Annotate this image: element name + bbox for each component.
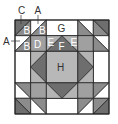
label-h: H bbox=[57, 62, 64, 73]
label-d: D bbox=[34, 39, 41, 50]
patch-g-left bbox=[15, 51, 31, 82]
patch-d bbox=[78, 83, 94, 99]
label-b: B bbox=[24, 25, 31, 36]
label-g: G bbox=[58, 23, 66, 34]
patch-d bbox=[78, 36, 94, 52]
label-a-top: A bbox=[35, 5, 42, 16]
label-c: C bbox=[18, 5, 25, 16]
label-f: F bbox=[59, 41, 65, 52]
label-e: E bbox=[71, 37, 78, 48]
quilt-block-diagram: C A A B B B D E F E G H bbox=[0, 0, 118, 124]
label-b: B bbox=[39, 25, 46, 36]
patch-g-bottom bbox=[46, 98, 77, 114]
patch-g-right bbox=[93, 51, 109, 82]
label-b: B bbox=[24, 41, 31, 52]
patch-d bbox=[31, 83, 47, 99]
label-e: E bbox=[48, 37, 55, 48]
label-a-left: A bbox=[3, 36, 10, 47]
